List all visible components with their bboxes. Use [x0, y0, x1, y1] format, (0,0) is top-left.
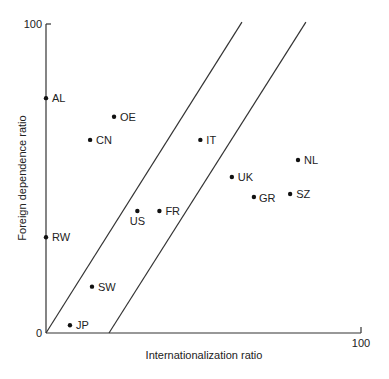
upper-diagonal-line [46, 22, 242, 333]
point-marker [198, 138, 202, 142]
point-label: SW [98, 281, 116, 293]
point-marker [135, 209, 139, 213]
point-label: CN [96, 134, 112, 146]
point-label: AL [52, 92, 65, 104]
point-label: FR [165, 205, 180, 217]
data-point-uk: UK [230, 171, 254, 183]
point-label: OE [120, 111, 136, 123]
point-label: US [130, 215, 145, 227]
data-point-al: AL [44, 92, 66, 104]
point-marker [230, 175, 234, 179]
data-point-us: US [130, 209, 145, 227]
lower-diagonal-line [109, 22, 306, 333]
point-marker [88, 138, 92, 142]
x-axis-title: Internationalization ratio [146, 349, 263, 361]
data-point-jp: JP [68, 319, 89, 331]
origin-label: 0 [36, 327, 42, 339]
data-point-gr: GR [252, 192, 276, 204]
point-marker [90, 284, 94, 288]
data-point-cn: CN [88, 134, 112, 146]
data-points: ALOECNITNLUKGRSZUSFRRWSWJP [44, 92, 318, 331]
x-max-label: 100 [352, 337, 370, 349]
point-marker [252, 195, 256, 199]
point-marker [44, 96, 48, 100]
y-max-label: 100 [24, 18, 42, 30]
data-point-nl: NL [296, 154, 318, 166]
data-point-sw: SW [90, 281, 117, 293]
point-marker [296, 158, 300, 162]
data-point-it: IT [198, 134, 216, 146]
reference-lines [46, 22, 306, 333]
point-marker [68, 323, 72, 327]
data-point-oe: OE [112, 111, 136, 123]
point-label: JP [76, 319, 89, 331]
point-marker [112, 115, 116, 119]
point-marker [157, 209, 161, 213]
point-label: IT [206, 134, 216, 146]
y-axis-title: Foreign dependence ratio [16, 115, 28, 240]
point-label: NL [304, 154, 318, 166]
scatter-chart: 100 0 100 Internationalization ratio For… [0, 0, 389, 379]
point-label: RW [52, 231, 71, 243]
data-point-fr: FR [157, 205, 180, 217]
data-point-sz: SZ [288, 188, 311, 200]
point-marker [44, 235, 48, 239]
point-label: GR [259, 192, 276, 204]
point-label: SZ [296, 188, 310, 200]
point-label: UK [238, 171, 254, 183]
point-marker [288, 192, 292, 196]
data-point-rw: RW [44, 231, 71, 243]
